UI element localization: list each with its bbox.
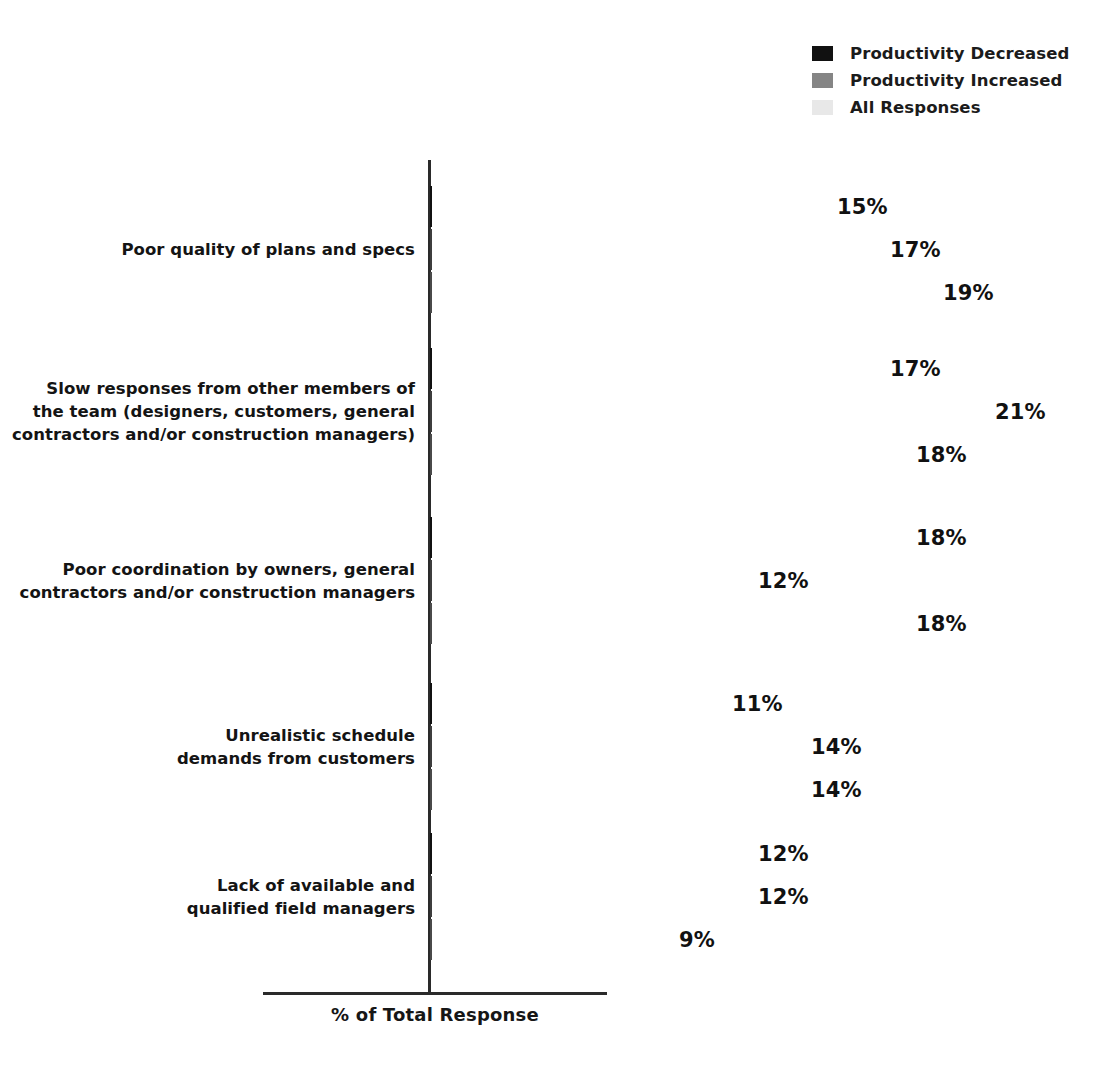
bar-value-label: 14% (811, 735, 862, 759)
bar-fill (430, 603, 432, 644)
bar-fill (430, 726, 432, 767)
category-label: Unrealistic scheduledemands from custome… (0, 724, 415, 770)
bar[interactable]: 18% (430, 517, 904, 558)
bar-value-label: 19% (943, 281, 994, 305)
bar[interactable]: 17% (430, 229, 878, 270)
bar-group: Slow responses from other members ofthe … (0, 348, 1099, 475)
category-label: Poor coordination by owners, generalcont… (0, 558, 415, 604)
bar[interactable]: 15% (430, 186, 825, 227)
plot-area: Poor quality of plans and specs15%17%19%… (0, 0, 1099, 1083)
bar-group: Lack of available andqualified field man… (0, 833, 1099, 960)
bar[interactable]: 21% (430, 391, 983, 432)
category-label-line: Lack of available and (0, 874, 415, 897)
bar-fill (430, 919, 432, 960)
bar[interactable]: 12% (430, 876, 746, 917)
bar[interactable]: 17% (430, 348, 878, 389)
bar[interactable]: 18% (430, 603, 904, 644)
bar-group: Unrealistic scheduledemands from custome… (0, 683, 1099, 810)
bar-value-label: 17% (890, 357, 941, 381)
bar-fill (430, 434, 432, 475)
bar-value-label: 17% (890, 238, 941, 262)
bar-fill (430, 769, 432, 810)
bar-group: Poor quality of plans and specs15%17%19% (0, 186, 1099, 313)
bar[interactable]: 14% (430, 769, 799, 810)
category-label-line: contractors and/or construction managers… (0, 423, 415, 446)
category-label-line: contractors and/or construction managers (0, 581, 415, 604)
bar-value-label: 18% (916, 443, 967, 467)
bar-value-label: 12% (758, 885, 809, 909)
category-label-line: the team (designers, customers, general (0, 400, 415, 423)
bar-value-label: 18% (916, 612, 967, 636)
bar-value-label: 12% (758, 569, 809, 593)
bar-chart: Productivity DecreasedProductivity Incre… (0, 0, 1099, 1083)
bar[interactable]: 12% (430, 833, 746, 874)
bar-fill (430, 272, 432, 313)
category-label-line: qualified field managers (0, 897, 415, 920)
bar-value-label: 21% (995, 400, 1046, 424)
category-label-line: Poor coordination by owners, general (0, 558, 415, 581)
bar-group: Poor coordination by owners, generalcont… (0, 517, 1099, 644)
bar-fill (430, 833, 432, 874)
bar[interactable]: 18% (430, 434, 904, 475)
bar-fill (430, 348, 432, 389)
bar-value-label: 14% (811, 778, 862, 802)
category-label: Lack of available andqualified field man… (0, 874, 415, 920)
bar-value-label: 9% (679, 928, 715, 952)
category-label-line: Poor quality of plans and specs (0, 238, 415, 261)
category-label: Slow responses from other members ofthe … (0, 377, 415, 446)
bar[interactable]: 9% (430, 919, 667, 960)
bar[interactable]: 19% (430, 272, 931, 313)
x-axis-title: % of Total Response (263, 1004, 607, 1025)
category-label-line: Unrealistic schedule (0, 724, 415, 747)
category-label-line: Slow responses from other members of (0, 377, 415, 400)
bar-fill (430, 876, 432, 917)
bar-fill (430, 229, 432, 270)
x-axis-line (263, 992, 607, 995)
bar-value-label: 18% (916, 526, 967, 550)
category-label-line: demands from customers (0, 747, 415, 770)
bar[interactable]: 12% (430, 560, 746, 601)
bar[interactable]: 14% (430, 726, 799, 767)
bar-fill (430, 391, 432, 432)
bar-fill (430, 517, 432, 558)
bar[interactable]: 11% (430, 683, 720, 724)
bar-fill (430, 560, 432, 601)
bar-fill (430, 683, 432, 724)
bar-fill (430, 186, 432, 227)
category-label: Poor quality of plans and specs (0, 238, 415, 261)
bar-value-label: 15% (837, 195, 888, 219)
bar-value-label: 12% (758, 842, 809, 866)
bar-value-label: 11% (732, 692, 783, 716)
